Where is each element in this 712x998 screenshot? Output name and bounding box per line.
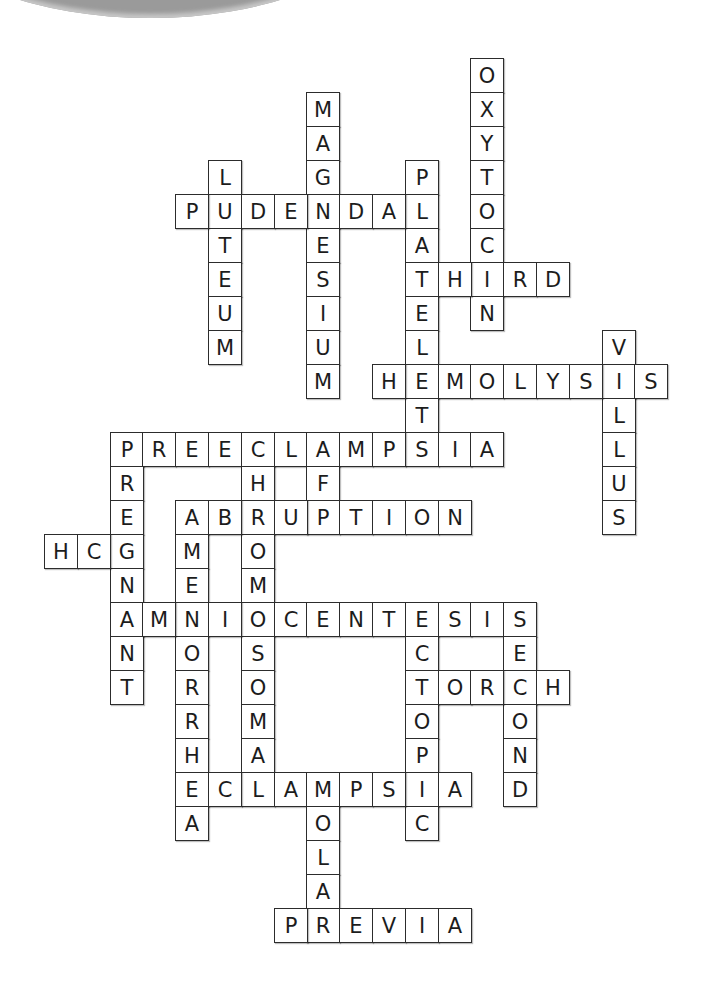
crossword-cell: P: [110, 432, 144, 467]
crossword-cell: A: [241, 738, 275, 773]
crossword-cell: N: [339, 602, 373, 637]
crossword-cell: M: [339, 432, 373, 467]
crossword-cell: C: [241, 432, 275, 467]
crossword-grid: OXYTOCINMAGNESIUMLUTEUMPLATELETSPDEDAHRD…: [0, 0, 712, 998]
crossword-cell: T: [405, 262, 439, 297]
crossword-cell: E: [208, 262, 242, 297]
crossword-cell: E: [274, 194, 308, 229]
crossword-cell: L: [602, 432, 636, 467]
crossword-cell: I: [438, 432, 472, 467]
crossword-cell: P: [306, 500, 340, 535]
crossword-cell: H: [438, 262, 472, 297]
crossword-cell: E: [306, 228, 340, 263]
crossword-cell: M: [306, 364, 340, 399]
crossword-cell: U: [602, 466, 636, 501]
crossword-cell: A: [274, 772, 308, 807]
crossword-cell: E: [208, 432, 242, 467]
crossword-cell: E: [175, 772, 209, 807]
crossword-cell: C: [208, 772, 242, 807]
crossword-cell: E: [175, 568, 209, 603]
crossword-cell: T: [470, 160, 504, 195]
crossword-cell: E: [405, 364, 439, 399]
crossword-cell: P: [175, 194, 209, 229]
crossword-cell: M: [208, 330, 242, 365]
crossword-cell: O: [405, 500, 439, 535]
crossword-cell: D: [339, 194, 373, 229]
crossword-cell: T: [110, 670, 144, 705]
crossword-cell: C: [405, 806, 439, 841]
crossword-cell: T: [339, 500, 373, 535]
crossword-cell: S: [634, 364, 668, 399]
crossword-cell: R: [470, 670, 504, 705]
crossword-cell: U: [274, 500, 308, 535]
crossword-cell: M: [438, 364, 472, 399]
crossword-cell: O: [241, 534, 275, 569]
crossword-cell: E: [110, 500, 144, 535]
crossword-cell: L: [274, 432, 308, 467]
crossword-cell: N: [438, 500, 472, 535]
crossword-cell: S: [438, 602, 472, 637]
crossword-cell: A: [175, 500, 209, 535]
crossword-cell: I: [405, 772, 439, 807]
crossword-cell: N: [110, 636, 144, 671]
crossword-cell: Y: [536, 364, 570, 399]
crossword-cell: E: [175, 432, 209, 467]
crossword-cell: O: [175, 636, 209, 671]
crossword-cell: O: [503, 704, 537, 739]
crossword-cell: M: [175, 534, 209, 569]
crossword-cell: U: [306, 330, 340, 365]
crossword-cell: A: [470, 432, 504, 467]
crossword-cell: A: [306, 874, 340, 909]
crossword-cell: U: [208, 296, 242, 331]
crossword-cell: I: [208, 602, 242, 637]
crossword-cell: H: [241, 466, 275, 501]
crossword-cell: M: [142, 602, 176, 637]
crossword-cell: S: [602, 500, 636, 535]
crossword-cell: U: [208, 194, 242, 229]
crossword-cell: C: [405, 636, 439, 671]
crossword-cell: O: [470, 194, 504, 229]
crossword-cell: O: [405, 704, 439, 739]
crossword-cell: C: [77, 534, 111, 569]
crossword-cell: D: [241, 194, 275, 229]
crossword-cell: C: [503, 670, 537, 705]
crossword-cell: T: [405, 670, 439, 705]
crossword-cell: O: [241, 670, 275, 705]
crossword-cell: E: [503, 636, 537, 671]
crossword-cell: N: [175, 602, 209, 637]
crossword-cell: D: [536, 262, 570, 297]
crossword-cell: I: [405, 908, 439, 943]
crossword-cell: S: [372, 772, 406, 807]
crossword-cell: I: [470, 602, 504, 637]
crossword-cell: E: [405, 296, 439, 331]
crossword-cell: S: [405, 432, 439, 467]
crossword-cell: S: [306, 262, 340, 297]
crossword-cell: S: [569, 364, 603, 399]
crossword-cell: A: [110, 602, 144, 637]
crossword-cell: G: [306, 160, 340, 195]
crossword-cell: I: [470, 262, 504, 297]
crossword-cell: A: [438, 772, 472, 807]
crossword-cell: R: [241, 500, 275, 535]
crossword-cell: T: [405, 398, 439, 433]
crossword-cell: A: [438, 908, 472, 943]
crossword-cell: H: [372, 364, 406, 399]
crossword-cell: M: [241, 568, 275, 603]
crossword-cell: O: [470, 364, 504, 399]
crossword-cell: L: [241, 772, 275, 807]
crossword-cell: M: [306, 92, 340, 127]
crossword-cell: P: [339, 772, 373, 807]
crossword-cell: L: [208, 160, 242, 195]
crossword-cell: B: [208, 500, 242, 535]
crossword-cell: L: [306, 840, 340, 875]
crossword-cell: A: [175, 806, 209, 841]
crossword-cell: R: [175, 670, 209, 705]
crossword-cell: A: [405, 228, 439, 263]
crossword-cell: L: [602, 398, 636, 433]
crossword-cell: G: [110, 534, 144, 569]
crossword-cell: C: [274, 602, 308, 637]
crossword-cell: H: [44, 534, 78, 569]
crossword-cell: E: [306, 602, 340, 637]
crossword-cell: R: [306, 908, 340, 943]
crossword-cell: H: [175, 738, 209, 773]
